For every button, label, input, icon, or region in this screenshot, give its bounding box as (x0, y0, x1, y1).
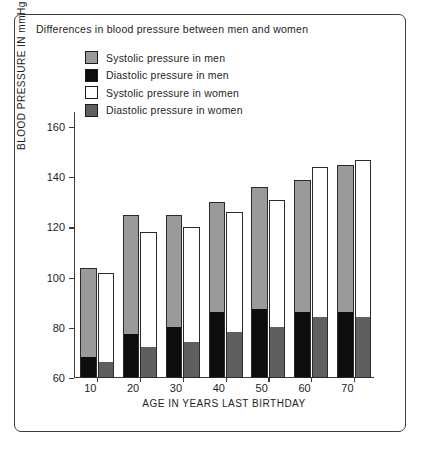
legend-label-systolic-men: Systolic pressure in men (106, 52, 225, 64)
x-tick-label: 70 (330, 382, 364, 394)
bar-men (166, 215, 183, 378)
y-tick-label: 80 (25, 322, 65, 334)
legend-item-systolic-men: Systolic pressure in men (85, 49, 335, 67)
legend-label-diastolic-men: Diastolic pressure in men (106, 69, 229, 81)
y-axis-line (74, 112, 75, 378)
legend-swatch-diastolic-men (85, 69, 98, 82)
bar-segment-diastolic-women (227, 332, 242, 377)
bar-segment-diastolic-men (167, 327, 182, 377)
bar-segment-diastolic-men (124, 334, 139, 377)
legend-item-systolic-women: Systolic pressure in women (85, 84, 335, 102)
bar-women (312, 167, 329, 378)
legend-label-systolic-women: Systolic pressure in women (106, 87, 239, 99)
bar-men (251, 187, 268, 378)
bar-segment-diastolic-women (141, 347, 156, 377)
bar-women (140, 232, 157, 378)
x-tick-label: 50 (245, 382, 279, 394)
bar-men (80, 268, 97, 378)
y-tick-label: 60 (25, 372, 65, 384)
y-tick-label: 140 (25, 171, 65, 183)
legend-item-diastolic-men: Diastolic pressure in men (85, 67, 335, 85)
x-tick-label: 10 (73, 382, 107, 394)
legend-swatch-systolic-men (85, 51, 98, 64)
bar-segment-diastolic-men (338, 312, 353, 377)
bar-segment-diastolic-men (252, 309, 267, 377)
y-tick-label: 100 (25, 272, 65, 284)
x-axis-title: AGE IN YEARS LAST BIRTHDAY (74, 398, 374, 409)
x-tick-label: 60 (288, 382, 322, 394)
y-tick (69, 127, 74, 128)
chart-legend: Systolic pressure in men Diastolic press… (85, 49, 335, 119)
bar-men (209, 202, 226, 378)
bar-segment-diastolic-women (184, 342, 199, 377)
bar-women (183, 227, 200, 378)
bar-segment-diastolic-women (313, 317, 328, 377)
bar-segment-diastolic-women (99, 362, 114, 377)
x-tick-label: 20 (116, 382, 150, 394)
y-tick (69, 278, 74, 279)
y-tick-label: 160 (25, 121, 65, 133)
bar-segment-diastolic-women (270, 327, 285, 377)
bar-women (355, 160, 372, 378)
y-tick (69, 378, 74, 379)
y-tick-label: 120 (25, 221, 65, 233)
y-tick (69, 328, 74, 329)
bar-segment-diastolic-men (81, 357, 96, 377)
bar-segment-diastolic-women (356, 317, 371, 377)
bar-men (294, 180, 311, 378)
bar-segment-diastolic-men (295, 312, 310, 377)
bar-men (337, 165, 354, 378)
bar-women (226, 212, 243, 378)
plot-area: 6080100120140160 10203040506070 (74, 112, 374, 378)
x-tick-label: 30 (159, 382, 193, 394)
legend-swatch-systolic-women (85, 86, 98, 99)
y-tick (69, 177, 74, 178)
chart-title: Differences in blood pressure between me… (36, 23, 308, 35)
x-tick-label: 40 (202, 382, 236, 394)
bar-women (98, 273, 115, 378)
y-tick (69, 227, 74, 228)
bar-men (123, 215, 140, 378)
bar-segment-diastolic-men (210, 312, 225, 377)
bar-women (269, 200, 286, 378)
figure: Differences in blood pressure between me… (0, 0, 422, 452)
